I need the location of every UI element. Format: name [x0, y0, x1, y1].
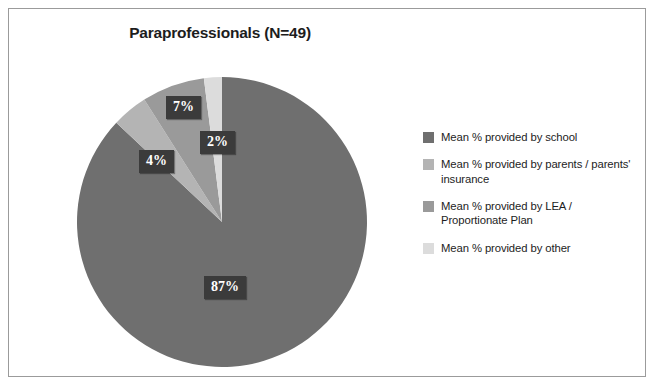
figure-canvas: Paraprofessionals (N=49) 7% 2% 4% 87% Me… [0, 0, 656, 387]
legend-item-label: Mean % provided by parents / parents' in… [441, 157, 635, 186]
pie-svg [77, 77, 367, 367]
legend-swatch-icon [423, 201, 434, 212]
legend-item-parents: Mean % provided by parents / parents' in… [423, 157, 635, 186]
legend-item-label: Mean % provided by LEA / Proportionate P… [441, 199, 635, 228]
legend-item-lea: Mean % provided by LEA / Proportionate P… [423, 199, 635, 228]
legend-item-label: Mean % provided by school [441, 130, 577, 144]
data-label-school: 87% [204, 276, 246, 299]
data-label-lea: 7% [166, 96, 201, 119]
data-label-parents: 4% [139, 150, 174, 173]
legend-item-school: Mean % provided by school [423, 130, 635, 144]
chart-legend: Mean % provided by school Mean % provide… [423, 130, 635, 268]
pie-chart [77, 77, 367, 367]
legend-swatch-icon [423, 132, 434, 143]
legend-item-other: Mean % provided by other [423, 241, 635, 255]
pie-slice-group [77, 77, 367, 367]
legend-swatch-icon [423, 243, 434, 254]
data-label-other: 2% [200, 131, 235, 154]
legend-swatch-icon [423, 159, 434, 170]
page-title: Paraprofessionals (N=49) [0, 24, 440, 42]
legend-item-label: Mean % provided by other [441, 241, 570, 255]
